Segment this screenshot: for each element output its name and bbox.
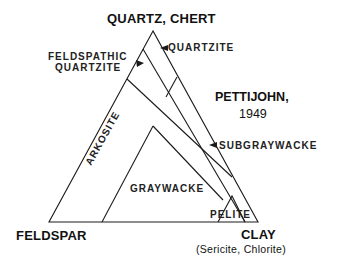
quartzite-boundary-line bbox=[143, 49, 245, 222]
field-label-pelite: PELITE bbox=[210, 210, 251, 220]
ternary-diagram bbox=[0, 0, 337, 261]
field-label-subgraywacke: SUBGRAYWACKE bbox=[219, 141, 317, 151]
field-label-feldspathic: FELDSPATHIC bbox=[48, 52, 128, 62]
field-label-feldspathic-quartzite: QUARTZITE bbox=[55, 63, 121, 73]
field-label-graywacke: GRAYWACKE bbox=[130, 184, 204, 194]
vertex-label-clay: CLAY bbox=[241, 228, 276, 241]
citation-author: PETTIJOHN, bbox=[215, 91, 289, 104]
vertex-label-feldspar: FELDSPAR bbox=[16, 229, 87, 242]
arkosite-graywacke-divider-line bbox=[102, 126, 153, 222]
citation-year: 1949 bbox=[239, 108, 267, 121]
vertex-label-quartz-chert: QUARTZ, CHERT bbox=[107, 12, 216, 25]
feldspathic-quartzite-arrow-icon bbox=[136, 60, 144, 67]
subgraywacke-separator-line bbox=[166, 77, 177, 97]
subgraywacke-arrow-icon bbox=[209, 142, 217, 148]
field-label-quartzite: QUARTZITE bbox=[168, 43, 234, 53]
vertex-note-sericite-chlorite: (Sericite, Chlorite) bbox=[196, 244, 286, 255]
